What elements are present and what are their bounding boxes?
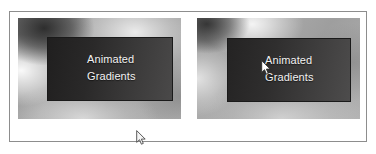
caption-block-left: Animated Gradients [87, 51, 136, 85]
caption-line-2: Gradients [87, 68, 136, 85]
gradient-caption-box-right: Animated Gradients [227, 38, 351, 102]
screenshot-stage: Animated Gradients Animated Gradients [0, 0, 376, 154]
caption-line-2: Gradients [265, 69, 314, 86]
caption-block-right: Animated Gradients [265, 52, 314, 86]
mouse-cursor-icon [136, 130, 147, 146]
caption-line-1: Animated [87, 51, 136, 68]
preview-frame: Animated Gradients Animated Gradients [9, 11, 367, 142]
caption-line-1: Animated [265, 52, 314, 69]
animated-gradient-preview-left[interactable]: Animated Gradients [18, 18, 181, 119]
animated-gradient-preview-right[interactable]: Animated Gradients [197, 18, 360, 119]
gradient-caption-box-left: Animated Gradients [47, 37, 173, 101]
